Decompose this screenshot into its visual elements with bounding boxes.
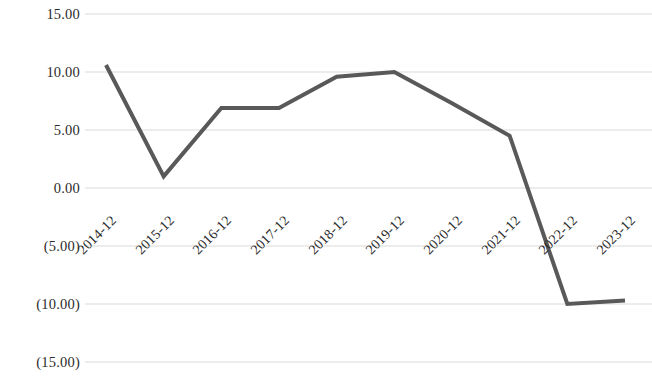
x-axis-tick-labels: 2014-122015-122016-122017-122018-122019-…	[0, 0, 652, 378]
line-chart: 15.0010.005.000.00(5.00)(10.00)(15.00) 2…	[0, 0, 652, 378]
